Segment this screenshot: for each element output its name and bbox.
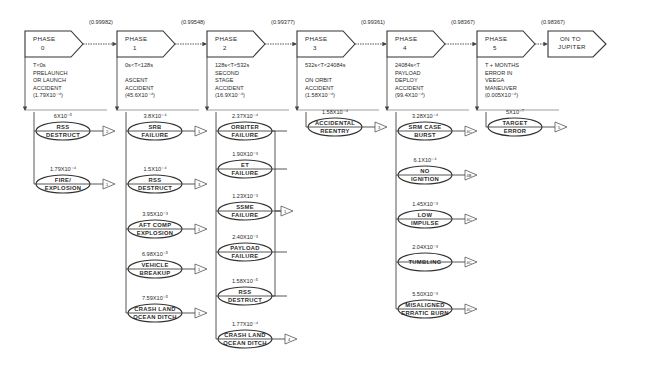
failure-label: EXPLOSION: [137, 230, 174, 236]
phase-description-line: (45.6X10⁻⁴): [125, 92, 155, 98]
event-tree-diagram: 0(0.99982)T<0sPRELAUNCHOR LAUNCHACCIDENT…: [0, 0, 646, 388]
phase-label: PHASE: [215, 35, 237, 42]
failure-label: LOW: [418, 212, 433, 218]
phase-number: 3: [313, 44, 317, 51]
final-label: JUPITER: [558, 43, 586, 50]
phase-description-line: (0.005X10⁻⁴): [485, 92, 518, 98]
final-box: ON TOJUPITER: [548, 31, 606, 57]
failure-probability: 2.04X10⁻³: [412, 244, 438, 250]
failure-label: DESTRUCT: [138, 185, 172, 191]
failure-label: FIRE/: [55, 177, 71, 183]
failure-node: 7.59X10⁻⁵CRASH LANDOCEAN DITCH1: [126, 295, 207, 322]
failure-probability: 7.59X10⁻⁵: [142, 295, 168, 301]
failure-probability: 1.23X10⁻³: [232, 193, 258, 199]
failure-label: FAILURE: [142, 132, 169, 138]
failure-probability: 3.95X10⁻³: [142, 211, 168, 217]
phase-label: PHASE: [33, 35, 55, 42]
failure-probability: 5.50X10⁻³: [412, 291, 438, 297]
phase-description-line: 128s<T<532s: [215, 62, 249, 68]
failure-probability: 3.8X10⁻⁴: [143, 113, 167, 119]
failure-label: OCEAN DITCH: [223, 340, 267, 346]
transfer-label: 4C: [466, 129, 471, 134]
phase-reliability: (0.99982): [89, 19, 113, 25]
transfer-triangle-icon: [103, 126, 115, 136]
phase-description-line: ACCIDENT: [395, 85, 424, 91]
failure-label: IGNITION: [411, 176, 439, 182]
failure-label: RSS: [239, 289, 252, 295]
failure-label: FAILURE: [232, 212, 259, 218]
transfer-triangle-icon: [195, 126, 207, 136]
failure-node: 5.50X10⁻³MISALIGNEDERRATIC BURN4C: [396, 291, 477, 318]
failure-node: 1.90X10⁻³ETFAILURE: [216, 151, 287, 178]
failure-label: PAYLOAD: [230, 245, 259, 251]
failure-label: FAILURE: [232, 132, 259, 138]
failure-probability: 1.5X10⁻⁴: [143, 166, 167, 172]
failure-label: MISALIGNED: [405, 302, 444, 308]
failure-label: FAILURE: [232, 253, 259, 259]
transfer-triangle-icon: [103, 179, 115, 189]
failure-label: BREAKUP: [140, 270, 171, 276]
failure-node: 1.58X10⁻⁵RSSDESTRUCT: [216, 278, 287, 305]
failure-label: TARGET: [502, 120, 527, 126]
phase-label: PHASE: [305, 35, 327, 42]
failure-probability: 1.77X10⁻⁴: [232, 321, 259, 327]
phase-reliability: (0.99548): [181, 19, 205, 25]
phase-column-2: 2(0.99377)128s<T<532sSECONDSTAGEACCIDENT…: [207, 19, 297, 348]
failure-label: NO: [420, 168, 429, 174]
failure-node: 3.28X10⁻⁴SRM CASEBURST4C: [396, 113, 477, 140]
failure-node: 5X10⁻⁷TARGETERROR5: [486, 109, 567, 136]
failure-probability: 1.58X10⁻⁵: [232, 278, 258, 284]
phase-description-line: 0s<T<128s: [125, 62, 153, 68]
phase-number: 0: [41, 44, 45, 51]
transfer-triangle-icon: [195, 179, 207, 189]
phase-description-line: OR LAUNCH: [33, 77, 66, 83]
failure-node: 2.04X10⁻³TUMBLING4C: [396, 244, 477, 271]
phase-description-line: ACCIDENT: [305, 85, 334, 91]
failure-label: IMPULSE: [411, 220, 439, 226]
phase-description-line: ACCIDENT: [125, 85, 154, 91]
phase-description-line: MANEUVER: [485, 85, 517, 91]
failure-node: 1.77X10⁻⁴CRASH LANDOCEAN DITCH4: [216, 321, 297, 348]
failure-label: SSME: [236, 204, 254, 210]
failure-label: CRASH LAND: [224, 332, 265, 338]
failure-label: EXPLOSION: [45, 185, 82, 191]
phase-description-line: DEPLOY: [395, 77, 418, 83]
failure-probability: 6X10⁻⁵: [54, 113, 72, 119]
failure-label: ERRATIC BURN: [401, 310, 448, 316]
transfer-triangle-icon: [195, 264, 207, 274]
phase-number: 1: [133, 44, 137, 51]
failure-label: CRASH LAND: [134, 306, 175, 312]
failure-node: 2.40X10⁻³PAYLOADFAILURE: [216, 234, 287, 261]
transfer-label: 4C: [466, 217, 471, 222]
failure-node: 3.95X10⁻³AFT COMPEXPLOSION1: [126, 211, 207, 238]
failure-probability: 1.79X10⁻⁴: [50, 166, 77, 172]
transfer-triangle-icon: [555, 122, 567, 132]
group-bracket: [272, 131, 275, 296]
failure-label: SRB: [148, 124, 161, 130]
transfer-label: 4B: [467, 173, 472, 178]
phase-description-line: (1.79X10⁻⁴): [33, 92, 63, 98]
phase-description-line: SECOND: [215, 70, 239, 76]
failure-node: 6X10⁻⁵RSSDESTRUCT2: [34, 113, 115, 140]
transfer-triangle-icon: [195, 308, 207, 318]
phase-reliability: (0.98367): [451, 19, 475, 25]
transfer-triangle-icon: [285, 334, 297, 344]
failure-label: AFT COMP: [139, 222, 172, 228]
failure-probability: 3.28X10⁻⁴: [412, 113, 439, 119]
failure-probability: 1.58X10⁻⁴: [322, 109, 349, 115]
phase-label: PHASE: [395, 35, 417, 42]
phase-description-line: 24084s<T: [395, 62, 421, 68]
phase-number: 2: [223, 44, 227, 51]
phase-description-line: PAYLOAD: [395, 70, 421, 76]
failure-probability: 6.98X10⁻⁵: [142, 251, 168, 257]
transfer-triangle-icon: [281, 206, 293, 216]
phase-number: 5: [493, 44, 497, 51]
failure-label: SRM CASE: [409, 124, 442, 130]
failure-label: BURST: [414, 132, 436, 138]
failure-probability: 2.40X10⁻³: [232, 234, 258, 240]
phase-description-line: ERROR IN: [485, 70, 512, 76]
transfer-label: 4C: [466, 260, 471, 265]
phase-description-line: (99.4X10⁻⁴): [395, 92, 425, 98]
failure-label: ERROR: [504, 128, 527, 134]
transfer-triangle-icon: [375, 122, 387, 132]
